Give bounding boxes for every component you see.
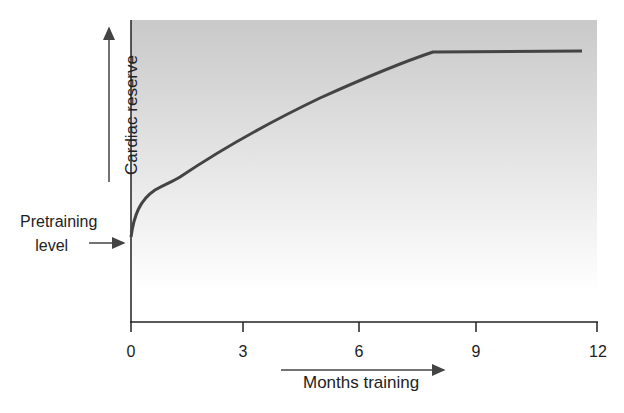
x-ticks (131, 322, 597, 332)
chart-svg (0, 0, 624, 413)
cardiac-reserve-curve (131, 51, 582, 237)
x-tick-label: 0 (116, 343, 146, 361)
pretraining-line1: Pretraining (20, 210, 97, 234)
x-tick-label: 6 (344, 343, 374, 361)
x-tick-label: 9 (461, 343, 491, 361)
pretraining-annotation: Pretraining level (20, 210, 97, 258)
x-axis-label: Months training (303, 373, 419, 393)
x-tick-label: 3 (228, 343, 258, 361)
y-axis-label: Cardiac reserve (122, 45, 142, 185)
x-tick-label: 12 (583, 343, 613, 361)
pretraining-line2: level (6, 234, 97, 258)
